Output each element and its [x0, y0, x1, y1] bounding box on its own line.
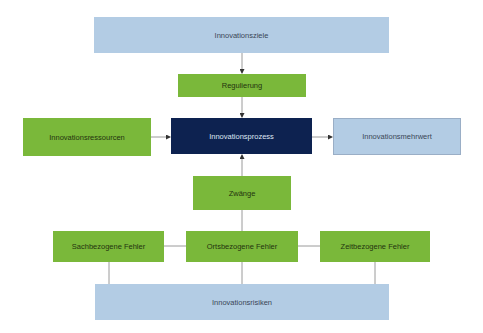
node-regulierung: Regulierung — [178, 74, 306, 97]
node-label: Innovationsziele — [215, 31, 269, 40]
node-label: Zwänge — [229, 189, 256, 198]
node-innovationsprozess: Innovationsprozess — [171, 118, 312, 154]
node-innovationsziele: Innovationsziele — [94, 17, 389, 53]
node-zeitbezogene-fehler: Zeitbezogene Fehler — [320, 231, 430, 262]
node-ortsbezogene-fehler: Ortsbezogene Fehler — [186, 231, 298, 262]
node-label: Sachbezogene Fehler — [72, 242, 145, 251]
node-zwaenge: Zwänge — [193, 176, 291, 210]
node-innovationsrisiken: Innovationsrisiken — [95, 284, 389, 320]
node-label: Innovationsprozess — [209, 132, 274, 141]
node-label: Ortsbezogene Fehler — [207, 242, 277, 251]
node-innovationsmehrwert: Innovationsmehrwert — [333, 118, 461, 155]
node-innovationsressourcen: Innovationsressourcen — [23, 118, 151, 156]
node-label: Regulierung — [222, 81, 262, 90]
node-label: Zeitbezogene Fehler — [341, 242, 410, 251]
node-sachbezogene-fehler: Sachbezogene Fehler — [53, 231, 164, 262]
node-label: Innovationsrisiken — [212, 298, 272, 307]
node-label: Innovationsressourcen — [49, 133, 124, 142]
node-label: Innovationsmehrwert — [362, 132, 432, 141]
